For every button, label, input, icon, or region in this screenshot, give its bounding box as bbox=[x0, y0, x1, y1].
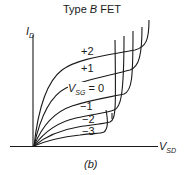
label-minus3: −3 bbox=[82, 125, 95, 137]
label-minus2: −2 bbox=[82, 113, 95, 125]
label-plus1: +1 bbox=[81, 62, 94, 74]
y-axis-label: ID bbox=[26, 25, 34, 39]
label-plus2: +2 bbox=[81, 45, 94, 57]
caption: (b) bbox=[84, 158, 97, 170]
x-axis-label: VSD bbox=[159, 140, 176, 154]
label-minus1: −1 bbox=[80, 100, 93, 112]
label-vsg-zero: VSG = 0 bbox=[68, 82, 104, 96]
